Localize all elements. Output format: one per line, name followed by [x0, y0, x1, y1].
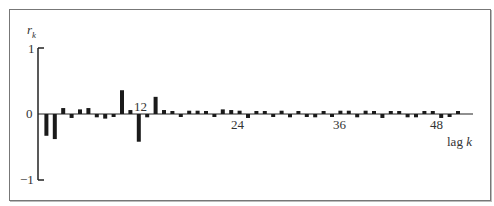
acf-bar [112, 114, 116, 117]
acf-bar [103, 114, 107, 119]
acf-bar [238, 111, 242, 114]
acf-bar [355, 114, 359, 117]
acf-bar [305, 114, 309, 117]
acf-bar [162, 110, 166, 114]
acf-bar [212, 114, 216, 117]
xtick-label-48: 48 [430, 117, 443, 133]
bars [44, 90, 460, 141]
acf-bar [422, 111, 426, 114]
acf-bar [70, 114, 74, 118]
xtick-label-24: 24 [231, 117, 244, 133]
acf-bar [95, 114, 99, 117]
acf-bar [364, 111, 368, 114]
acf-bar [187, 111, 191, 114]
acf-bar [120, 90, 124, 114]
acf-bar [44, 114, 48, 136]
ytick-label-0: 0 [26, 106, 33, 122]
acf-bar [406, 114, 410, 117]
acf-bar [271, 114, 275, 117]
acf-bar [221, 109, 225, 114]
acf-bar [389, 111, 393, 114]
acf-bar [397, 111, 401, 114]
acf-bar [254, 111, 258, 114]
acf-bar [128, 110, 132, 114]
acf-bar [380, 114, 384, 118]
acf-bar [86, 108, 90, 114]
acf-bar [431, 111, 435, 114]
acf-bar [53, 114, 57, 139]
acf-bar [322, 111, 326, 114]
ytick-label-1: 1 [28, 41, 35, 57]
acf-bar [78, 109, 82, 114]
acf-bar [154, 97, 158, 114]
acf-bar [137, 114, 141, 142]
acf-bar [338, 111, 342, 114]
acf-bar [313, 114, 317, 117]
acf-bar [296, 111, 300, 114]
acf-bar [263, 111, 267, 114]
acf-bar [347, 111, 351, 114]
x-axis-label: lag k [447, 134, 472, 150]
xtick-label-12: 12 [134, 99, 147, 115]
acf-bar [288, 114, 292, 117]
acf-bar [280, 111, 284, 114]
acf-bar [170, 111, 174, 114]
acf-bar [61, 108, 65, 114]
ytick-label-minus1: −1 [20, 172, 34, 188]
xtick-label-36: 36 [333, 117, 346, 133]
acf-bar [179, 114, 183, 117]
correlogram-plot [0, 0, 494, 206]
acf-bar [448, 114, 452, 117]
acf-bar [414, 114, 418, 117]
acf-bar [229, 110, 233, 114]
acf-bar [246, 114, 250, 118]
y-axis-label: rk [27, 22, 36, 40]
acf-bar [456, 111, 460, 114]
acf-bar [204, 111, 208, 114]
acf-bar [196, 111, 200, 114]
acf-bar [372, 111, 376, 114]
